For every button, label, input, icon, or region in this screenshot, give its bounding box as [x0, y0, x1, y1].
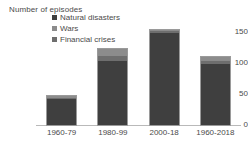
bar-slot	[87, 24, 138, 125]
bar-2000-18[interactable]	[150, 30, 179, 125]
legend-label-natural-disasters: Natural disasters	[60, 13, 120, 22]
legend-item-natural-disasters: Natural disasters	[52, 12, 120, 22]
bar-group	[36, 24, 241, 125]
bar-slot	[190, 24, 241, 125]
bar-chart: Number of episodes Natural disasters War…	[0, 0, 248, 149]
bar-1960-79[interactable]	[47, 96, 76, 125]
bar-1960-2018[interactable]	[201, 57, 230, 125]
x-axis-label-2: 2000-18	[139, 128, 190, 137]
bar-1980-99[interactable]	[98, 49, 127, 125]
x-axis-label-3: 1960-2018	[190, 128, 241, 137]
bar-slot	[139, 24, 190, 125]
bar-segment-natural-disasters	[201, 64, 230, 125]
bar-segment-natural-disasters	[150, 33, 179, 125]
x-axis-labels: 1960-79 1980-99 2000-18 1960-2018	[36, 128, 241, 137]
x-axis-label-0: 1960-79	[36, 128, 87, 137]
x-axis-label-1: 1980-99	[87, 128, 138, 137]
bar-segment-natural-disasters	[47, 99, 76, 125]
legend-swatch-natural-disasters	[52, 15, 57, 20]
bar-slot	[36, 24, 87, 125]
bar-segment-natural-disasters	[98, 61, 127, 125]
